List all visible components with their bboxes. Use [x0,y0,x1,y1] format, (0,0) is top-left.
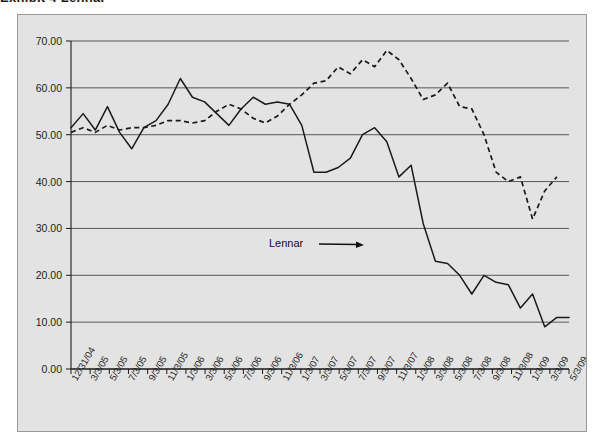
y-tick-label: 10.00 [18,316,62,328]
series-line-lennar [71,78,569,326]
y-tick-label: 20.00 [18,269,62,281]
cut-off-figure-title: Exhibit 4 Lennar [0,0,300,5]
y-tick-label: 30.00 [18,222,62,234]
annotation-label-lennar: Lennar [269,237,303,249]
chart-frame: 0.0010.0020.0030.0040.0050.0060.0070.00 … [17,14,587,432]
y-tick-label: 70.00 [18,35,62,47]
y-tick-label: 0.00 [18,363,62,375]
gridlines-group [71,41,569,369]
figure-title-text: Exhibit 4 Lennar [0,0,106,5]
axes-group [71,41,569,369]
annotation-arrow-icon [319,242,364,248]
y-tick-label: 40.00 [18,176,62,188]
y-tick-marks [66,41,71,369]
y-tick-label: 60.00 [18,82,62,94]
y-tick-label: 50.00 [18,129,62,141]
